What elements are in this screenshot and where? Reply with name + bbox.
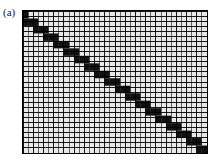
matrix-block — [23, 11, 28, 18]
figure-panel: (a) — [0, 0, 219, 164]
matrix-grid-svg — [23, 11, 207, 153]
panel-label: (a) — [3, 6, 15, 18]
matrix-block — [54, 41, 69, 48]
matrix-block — [23, 18, 38, 25]
matrix-sparsity-plot — [22, 10, 208, 154]
matrix-block — [64, 48, 79, 55]
matrix-block — [146, 108, 161, 115]
matrix-block — [156, 116, 171, 123]
matrix-block — [166, 123, 181, 130]
matrix-block — [43, 33, 58, 40]
matrix-block — [187, 138, 202, 145]
matrix-block — [176, 131, 191, 138]
matrix-block — [33, 26, 48, 33]
